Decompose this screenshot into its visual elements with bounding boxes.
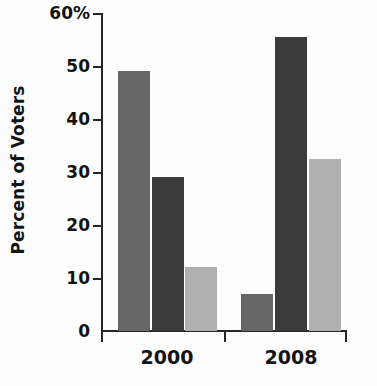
bar-2000-series-3	[185, 267, 217, 331]
bar-2008-series-1	[241, 294, 273, 331]
x-tick-label-2008: 2008	[241, 346, 341, 368]
plot-area	[0, 0, 377, 386]
bar-2000-series-1	[118, 71, 150, 331]
bar-2008-series-3	[309, 159, 341, 331]
bar-2000-series-2	[152, 177, 184, 331]
bar-2008-series-2	[275, 37, 307, 331]
bar-chart: Percent of Voters 60% 50 40 30 20 10 0 2…	[0, 0, 377, 386]
x-tick-label-2000: 2000	[117, 346, 217, 368]
